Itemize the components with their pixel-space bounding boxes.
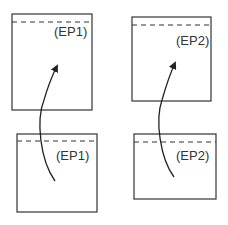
arrow-left — [40, 66, 57, 181]
arrow-right — [159, 63, 175, 177]
box-label: (EP2) — [176, 148, 209, 163]
box-top-left: (EP1) — [12, 14, 92, 110]
box-bottom-right: (EP2) — [134, 134, 216, 199]
box-label: (EP1) — [56, 148, 89, 163]
box-bottom-left: (EP1) — [17, 134, 97, 212]
diagram: (EP1) (EP2) (EP1) (EP2) — [0, 0, 228, 225]
diagram-canvas: (EP1) (EP2) (EP1) (EP2) — [0, 0, 228, 225]
box-label: (EP2) — [176, 33, 209, 48]
box-label: (EP1) — [54, 24, 87, 39]
box-top-right: (EP2) — [132, 17, 211, 101]
